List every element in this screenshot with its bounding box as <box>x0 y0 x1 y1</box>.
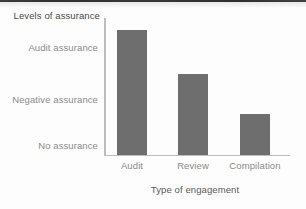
bar-review <box>178 74 208 155</box>
assurance-bar-chart: Levels of assurance Audit assurance Nega… <box>0 0 306 209</box>
y-tick-label-no-assurance: No assurance <box>2 140 98 151</box>
x-axis-title-text: Type of engagement <box>151 184 239 195</box>
y-tick-label-negative-assurance: Negative assurance <box>2 94 98 105</box>
y-tick-label-audit-assurance: Audit assurance <box>2 42 98 53</box>
x-tick-label-review: Review <box>177 160 209 171</box>
x-tick-label-audit: Audit <box>121 160 143 171</box>
bar-audit <box>117 30 147 155</box>
y-axis-title: Levels of assurance <box>6 10 100 21</box>
y-axis-line <box>104 18 106 155</box>
bar-compilation <box>240 114 270 155</box>
x-tick-label-compilation: Compilation <box>229 160 280 171</box>
scan-artifact-gradient <box>0 2 306 8</box>
x-axis-title: Type of engagement <box>0 184 306 195</box>
